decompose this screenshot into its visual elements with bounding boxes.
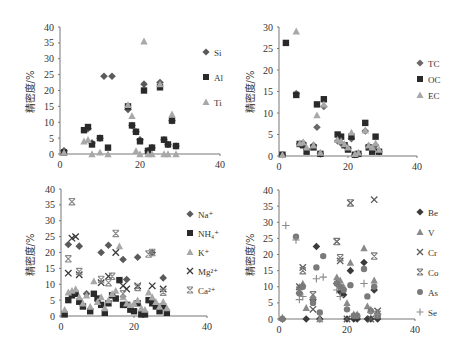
legend-item: Ti: [203, 98, 223, 108]
x-tick-label: 20: [129, 321, 139, 332]
legend-item: Al: [203, 73, 223, 83]
legend-item: Be: [416, 208, 438, 218]
x-tick-label: 20: [342, 324, 352, 335]
legend-item: V: [417, 228, 436, 238]
legend-label: EC: [428, 91, 440, 101]
y-tick-label: 25: [263, 233, 273, 244]
y-axis-label: 精密度/%: [244, 234, 256, 277]
scatter-chart-3: 051015202530354002040精密度/%Na⁺NH₄⁺K⁺Mg²⁺C…: [24, 184, 219, 333]
legend-label: OC: [428, 75, 441, 85]
y-tick-label: 15: [263, 86, 273, 97]
y-tick-label: 30: [44, 53, 54, 64]
y-tick-label: 30: [263, 217, 273, 228]
legend-label: Ti: [214, 98, 222, 108]
y-axis-label: 精密度/%: [24, 234, 36, 277]
y-tick-label: 5: [49, 133, 54, 144]
y-tick-label: 35: [45, 199, 55, 210]
y-axis-label: 精密度/%: [24, 71, 36, 114]
y-tick-label: 35: [44, 37, 54, 48]
legend-item: Si: [202, 48, 222, 58]
legend: Na⁺NH₄⁺K⁺Mg²⁺Ca²⁺: [186, 210, 219, 296]
legend-item: As: [417, 288, 438, 298]
y-tick-label: 20: [263, 249, 273, 260]
legend-label: Si: [214, 48, 222, 58]
y-tick-label: 5: [50, 295, 55, 306]
legend-item: TC: [416, 59, 439, 69]
legend: BeVCrCoAsSe: [416, 208, 439, 318]
legend-label: Se: [428, 308, 437, 318]
x-tick-label: 40: [412, 161, 422, 172]
x-tick-label: 20: [135, 159, 145, 170]
series-Be: [279, 243, 382, 323]
y-tick-label: 30: [263, 22, 273, 33]
y-axis-label: 精密度/%: [244, 71, 256, 114]
y-tick-label: 15: [263, 265, 273, 276]
legend: TCOCEC: [416, 59, 440, 101]
legend-label: Al: [214, 73, 223, 83]
series-OC: [279, 40, 382, 158]
legend-item: Na⁺: [186, 210, 213, 220]
legend-label: V: [428, 228, 435, 238]
legend-item: OC: [417, 75, 441, 85]
legend-label: NH₄⁺: [198, 229, 219, 239]
legend-label: Co: [428, 268, 439, 278]
figure: 051015202530354002040精密度/%SiAlTi05101520…: [0, 0, 459, 358]
legend-label: Ca²⁺: [198, 286, 216, 296]
scatter-chart-4: 051015202530354002040精密度/%BeVCrCoAsSe: [244, 185, 439, 336]
y-tick-label: 20: [44, 85, 54, 96]
legend-item: Se: [417, 308, 438, 318]
y-tick-label: 10: [263, 108, 273, 119]
legend-item: Co: [417, 268, 439, 278]
chart-canvas: 051015202530354002040精密度/%SiAlTi05101520…: [0, 0, 459, 358]
scatter-chart-1: 051015202530354002040精密度/%SiAlTi: [24, 22, 225, 171]
legend-item: K⁺: [187, 248, 210, 258]
legend-label: K⁺: [198, 248, 209, 258]
series-Mg²⁺: [65, 233, 166, 292]
x-tick-label: 40: [410, 324, 420, 335]
legend-label: As: [428, 288, 438, 298]
legend-item: Mg²⁺: [187, 267, 218, 277]
y-tick-label: 40: [263, 185, 273, 196]
y-tick-label: 0: [268, 151, 273, 162]
x-tick-label: 0: [277, 324, 282, 335]
y-tick-label: 25: [45, 231, 55, 242]
x-tick-label: 40: [202, 321, 212, 332]
x-tick-label: 40: [215, 159, 225, 170]
x-tick-label: 0: [277, 161, 282, 172]
y-tick-label: 15: [45, 263, 55, 274]
y-tick-label: 5: [268, 129, 273, 140]
y-tick-label: 20: [263, 65, 273, 76]
legend-label: Cr: [428, 248, 437, 258]
y-tick-label: 5: [268, 297, 273, 308]
y-tick-label: 10: [263, 281, 273, 292]
legend-item: EC: [417, 91, 440, 101]
legend-label: Be: [428, 208, 438, 218]
legend: SiAlTi: [202, 48, 223, 108]
y-tick-label: 0: [49, 149, 54, 160]
y-tick-label: 10: [45, 279, 55, 290]
scatter-chart-2: 05101520253002040精密度/%TCOCEC: [244, 22, 441, 173]
y-tick-label: 40: [45, 184, 55, 195]
y-tick-label: 10: [44, 117, 54, 128]
y-tick-label: 25: [44, 69, 54, 80]
y-tick-label: 25: [263, 43, 273, 54]
x-tick-label: 0: [58, 159, 63, 170]
y-tick-label: 15: [44, 101, 54, 112]
legend-item: Ca²⁺: [187, 286, 216, 296]
y-tick-label: 0: [50, 311, 55, 322]
legend-label: Mg²⁺: [198, 267, 218, 277]
legend-item: Cr: [417, 248, 437, 258]
legend-item: NH₄⁺: [187, 229, 219, 239]
y-tick-label: 40: [44, 22, 54, 33]
y-tick-label: 35: [263, 201, 273, 212]
x-tick-label: 20: [343, 161, 353, 172]
y-tick-label: 30: [45, 215, 55, 226]
y-tick-label: 20: [45, 247, 55, 258]
x-tick-label: 0: [59, 321, 64, 332]
series-Al: [61, 84, 179, 155]
legend-label: Na⁺: [198, 210, 213, 220]
y-tick-label: 0: [268, 314, 273, 325]
legend-label: TC: [428, 59, 440, 69]
